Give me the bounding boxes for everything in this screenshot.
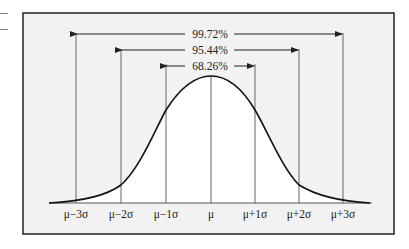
axis-label-minus-3sigma: μ−3σ: [64, 208, 89, 221]
axis-label-minus-2sigma: μ−2σ: [109, 208, 134, 221]
axis-label-plus-1sigma: μ+1σ: [243, 208, 268, 221]
interval-label-95: 95.44%: [192, 44, 228, 56]
axis-label-plus-2sigma: μ+2σ: [287, 208, 312, 221]
interval-label-99: 99.72%: [192, 28, 228, 40]
axis-label-mean: μ: [208, 208, 214, 221]
normal-distribution-diagram: 99.72% 95.44% 68.26% μ−3σ μ−2σ μ−1σ μ μ+…: [0, 0, 409, 249]
axis-label-minus-1sigma: μ−1σ: [154, 208, 179, 221]
interval-label-68: 68.26%: [192, 60, 228, 72]
axis-label-plus-3sigma: μ+3σ: [331, 208, 356, 221]
